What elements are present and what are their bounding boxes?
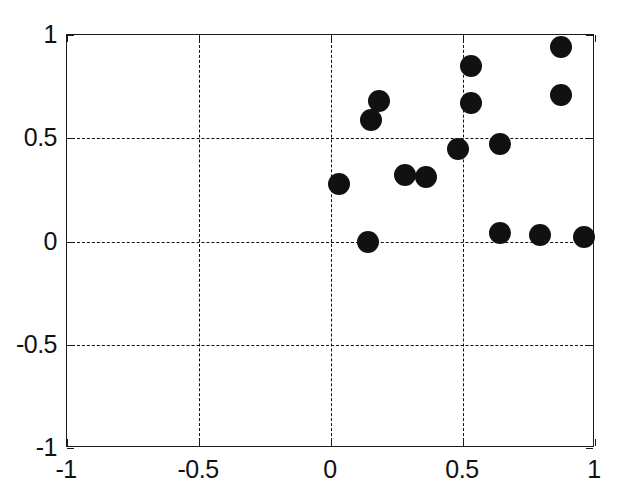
plot-area — [66, 34, 594, 447]
gridline-horizontal — [67, 242, 593, 243]
data-point — [328, 173, 350, 195]
x-tick-label: 0.5 — [445, 455, 478, 484]
figure-canvas: -1-0.500.51 -1-0.500.51 — [0, 0, 626, 503]
data-point — [394, 164, 416, 186]
data-point — [368, 90, 390, 112]
y-tick-mark — [67, 242, 74, 243]
x-tick-mark — [331, 35, 332, 42]
x-tick-label: 1 — [587, 455, 600, 484]
data-point — [460, 55, 482, 77]
x-tick-mark — [463, 439, 464, 446]
y-tick-mark — [586, 345, 593, 346]
y-tick-mark — [586, 138, 593, 139]
y-tick-label: 0 — [44, 226, 57, 255]
x-tick-mark — [199, 35, 200, 42]
data-point — [447, 138, 469, 160]
y-tick-mark — [67, 138, 74, 139]
x-tick-mark — [67, 35, 68, 42]
data-point — [489, 133, 511, 155]
x-tick-mark — [67, 439, 68, 446]
data-point — [529, 224, 551, 246]
x-tick-label: -0.5 — [177, 455, 218, 484]
gridline-vertical — [199, 35, 200, 446]
y-tick-mark — [67, 448, 74, 449]
y-tick-mark — [67, 345, 74, 346]
y-tick-label: -1 — [36, 433, 57, 462]
y-tick-label: 0.5 — [24, 123, 57, 152]
data-point — [550, 36, 572, 58]
data-point — [550, 84, 572, 106]
y-tick-mark — [586, 448, 593, 449]
y-tick-mark — [67, 35, 74, 36]
x-tick-mark — [331, 439, 332, 446]
x-tick-mark — [595, 35, 596, 42]
x-tick-label: 0 — [323, 455, 336, 484]
y-tick-label: -0.5 — [16, 329, 57, 358]
data-point — [357, 231, 379, 253]
x-tick-mark — [595, 439, 596, 446]
y-tick-mark — [586, 242, 593, 243]
x-tick-mark — [463, 35, 464, 42]
data-point — [573, 226, 595, 248]
data-point — [460, 92, 482, 114]
gridline-vertical — [331, 35, 332, 446]
data-point — [415, 166, 437, 188]
gridline-horizontal — [67, 345, 593, 346]
y-tick-label: 1 — [44, 20, 57, 49]
x-tick-mark — [199, 439, 200, 446]
gridline-horizontal — [67, 138, 593, 139]
y-tick-mark — [586, 35, 593, 36]
x-tick-label: -1 — [55, 455, 76, 484]
